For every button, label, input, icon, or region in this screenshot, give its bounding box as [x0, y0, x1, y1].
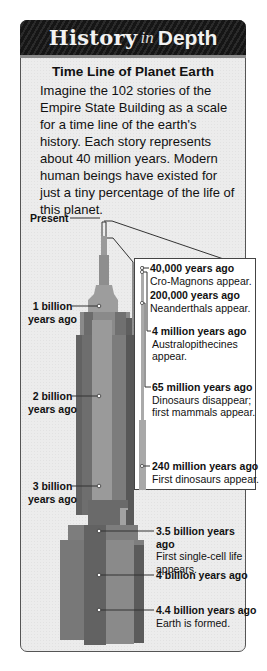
label-present-text: Present: [30, 212, 69, 224]
label-line2: years ago: [28, 403, 77, 416]
label-1-billion: 1 billion years ago: [28, 300, 77, 326]
event-neanderthals: 200,000 years ago Neanderthals appear.: [150, 289, 250, 314]
event-desc: Australopithecines appear.: [152, 338, 238, 363]
event-desc: Earth is formed.: [156, 617, 230, 629]
event-time: 240 million years ago: [152, 460, 259, 473]
event-time: 40,000 years ago: [150, 262, 252, 275]
event-time: 200,000 years ago: [150, 289, 250, 302]
event-australopithecines: 4 million years ago Australopithecines a…: [152, 325, 252, 363]
label-line2: years ago: [28, 313, 77, 326]
event-single-cell-life: 3.5 billion years ago First single-cell …: [156, 525, 248, 575]
event-dinosaurs-disappear: 65 million years ago Dinosaurs disappear…: [152, 381, 256, 419]
label-line1: 1 billion: [28, 300, 77, 313]
event-first-dinosaurs: 240 million years ago First dinosaurs ap…: [152, 460, 259, 485]
label-2-billion: 2 billion years ago: [28, 390, 77, 416]
event-time: 4 billion years ago: [156, 569, 248, 582]
label-3-billion: 3 billion years ago: [28, 480, 77, 506]
event-4-billion: 4 billion years ago: [156, 569, 248, 582]
event-time: 3.5 billion years ago: [156, 525, 248, 550]
label-present: Present: [30, 212, 69, 225]
event-desc: Neanderthals appear.: [150, 302, 250, 314]
event-desc: Dinosaurs disappear; first mammals appea…: [152, 394, 255, 419]
event-earth-formed: 4.4 billion years ago Earth is formed.: [156, 604, 256, 629]
event-cro-magnons: 40,000 years ago Cro-Magnons appear.: [150, 262, 252, 287]
event-desc: First dinosaurs appear.: [152, 473, 259, 485]
label-line1: 2 billion: [28, 390, 77, 403]
event-time: 4.4 billion years ago: [156, 604, 256, 617]
event-desc: Cro-Magnons appear.: [150, 275, 252, 287]
event-time: 65 million years ago: [152, 381, 256, 394]
label-line2: years ago: [28, 493, 77, 506]
event-time: 4 million years ago: [152, 325, 252, 338]
label-line1: 3 billion: [28, 480, 77, 493]
